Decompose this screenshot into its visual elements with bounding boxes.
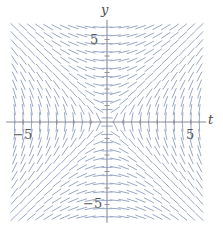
slope-segment — [53, 65, 61, 72]
slope-segment — [28, 40, 36, 47]
slope-segment — [171, 180, 178, 188]
slope-segment — [37, 163, 43, 172]
slope-segment — [161, 214, 170, 219]
slope-segment — [136, 66, 145, 71]
slope-segment — [188, 171, 194, 180]
slope-segment — [19, 32, 27, 39]
slope-segment — [128, 156, 137, 162]
slope-segment — [163, 155, 169, 164]
slope-segment — [52, 49, 61, 55]
slope-segment — [197, 64, 202, 73]
slope-segment — [188, 180, 194, 188]
slope-segment — [19, 24, 27, 31]
slope-segment — [196, 180, 202, 189]
slope-segment — [171, 172, 178, 180]
slope-segment — [170, 32, 178, 38]
slope-segment — [79, 130, 84, 139]
slope-segment — [162, 49, 170, 56]
slope-segment — [12, 56, 18, 65]
slope-segment — [179, 214, 187, 220]
slope-segment — [96, 113, 101, 122]
slope-segment — [28, 48, 35, 56]
slope-segment — [44, 180, 52, 187]
slope-segment — [78, 139, 85, 147]
slope-segment — [145, 49, 154, 54]
slope-segment — [53, 164, 60, 172]
slope-segment — [153, 214, 162, 219]
slope-segment — [44, 24, 53, 29]
slope-segment — [196, 40, 203, 48]
slope-segment — [146, 155, 153, 163]
slope-segment — [196, 24, 204, 31]
slope-segment — [144, 198, 153, 203]
slope-segment — [162, 197, 170, 203]
slope-segment — [44, 41, 52, 47]
slope-segment — [36, 214, 45, 220]
y-axis-label: y — [101, 3, 108, 16]
slope-segment — [70, 89, 77, 97]
slope-segment — [153, 57, 161, 63]
slope-segment — [187, 197, 194, 205]
slope-segment — [61, 164, 69, 171]
slope-segment — [61, 49, 70, 54]
slope-segment — [170, 214, 179, 220]
slope-segment — [145, 181, 154, 187]
slope-segment — [19, 213, 27, 220]
slope-segment — [170, 197, 178, 204]
slope-segment — [170, 48, 178, 55]
slope-segment — [180, 64, 186, 72]
slope-segment — [44, 57, 52, 64]
slope-segment — [44, 214, 53, 219]
slope-segment — [27, 205, 35, 212]
slope-segment — [129, 139, 136, 147]
slope-segment — [179, 32, 187, 39]
slope-segment — [162, 41, 170, 47]
slope-segment — [86, 139, 94, 145]
slope-segment — [28, 188, 35, 196]
slope-segment — [72, 130, 76, 140]
slope-segment — [128, 82, 137, 88]
slope-segment — [45, 172, 52, 180]
slope-segment — [29, 163, 34, 172]
slope-segment — [145, 172, 153, 178]
slope-segment — [20, 64, 26, 73]
slope-segment — [52, 25, 61, 30]
slope-segment — [53, 81, 59, 89]
slope-segment — [19, 205, 27, 212]
slope-segment — [153, 33, 162, 38]
slope-segment — [61, 57, 70, 63]
slope-segment — [154, 164, 161, 172]
slope-segment — [36, 56, 43, 64]
slope-segment — [196, 196, 203, 204]
slope-segment — [20, 56, 26, 64]
slope-segment — [146, 81, 153, 89]
slope-segment — [180, 163, 185, 172]
slope-segment — [137, 81, 145, 88]
slope-segment — [170, 24, 179, 30]
slope-segment — [78, 90, 86, 97]
slope-segment — [53, 73, 60, 81]
slope-segment — [162, 65, 169, 73]
slope-segment — [44, 49, 52, 56]
slope-segment — [196, 213, 204, 220]
slope-segment — [170, 40, 178, 47]
slope-segment — [163, 81, 169, 90]
slope-segment — [196, 205, 203, 213]
t-axis-label: t — [208, 113, 213, 126]
slope-segment — [62, 89, 68, 98]
slope-segment — [86, 98, 94, 104]
slope-segment — [78, 147, 86, 154]
slope-segment — [27, 32, 35, 39]
slope-segment — [37, 72, 43, 81]
slope-segment — [61, 172, 69, 178]
slope-segment — [37, 172, 44, 180]
slope-segment — [29, 72, 34, 81]
slope-segment — [187, 40, 194, 48]
slope-segment — [45, 65, 52, 73]
slope-segment — [161, 24, 170, 29]
slope-segment — [69, 74, 77, 80]
slope-segment — [153, 25, 162, 30]
slope-segment — [36, 40, 44, 47]
slope-segment — [171, 64, 178, 72]
slope-segment — [130, 105, 135, 114]
